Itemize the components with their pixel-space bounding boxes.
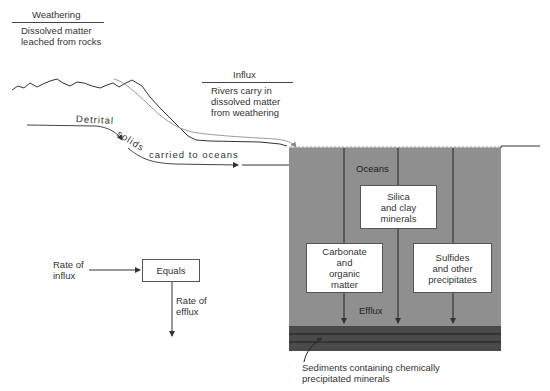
detrital-flow-into-ocean (242, 165, 297, 324)
sulfides-box: Sulfides and other precipitates (413, 243, 492, 293)
equals-label: Equals (156, 265, 185, 276)
influx-desc-1: Rivers carry in (211, 85, 272, 96)
silica-line-1: Silica (381, 191, 417, 202)
ocean-surface-waves (289, 147, 501, 149)
influx-desc-2: dissolved matter (211, 96, 280, 107)
ocean-water (289, 148, 501, 326)
diagram-graphics (0, 0, 550, 391)
rate-of-efflux-1: Rate of (176, 295, 207, 306)
weathering-desc-1: Dissolved matter (21, 25, 92, 36)
rate-of-efflux-2: efflux (176, 306, 199, 317)
sulfides-line-2: and other (428, 263, 477, 274)
efflux-label: Efflux (359, 305, 383, 316)
carbonate-line-3: organic (322, 268, 366, 279)
rate-of-influx-1: Rate of (53, 259, 84, 270)
influx-title: Influx (233, 69, 256, 80)
sediments-label-2: precipitated minerals (302, 373, 390, 384)
weathering-desc-2: leached from rocks (21, 36, 101, 47)
carbonate-line-2: and (322, 257, 366, 268)
detrital-label-1: Detrital (76, 113, 115, 126)
sediments-label-1: Sediments containing chemically (302, 362, 440, 373)
silica-clay-box: Silica and clay minerals (360, 185, 437, 229)
weathering-title: Weathering (32, 9, 80, 20)
influx-divider (202, 82, 293, 83)
detrital-flow-arrow (27, 125, 122, 140)
sulfides-line-1: Sulfides (428, 252, 477, 263)
sulfides-line-3: precipitates (428, 274, 477, 285)
right-shore (501, 146, 540, 148)
equals-box: Equals (142, 259, 200, 282)
detrital-label-3: carried to oceans (149, 149, 239, 160)
oceans-label: Oceans (356, 163, 389, 174)
carbonate-line-4: matter (322, 279, 366, 290)
rate-of-influx-2: influx (53, 270, 75, 281)
influx-desc-3: from weathering (211, 107, 279, 118)
carbonate-line-1: Carbonate (322, 246, 366, 257)
silica-line-2: and clay (381, 202, 417, 213)
weathering-divider (12, 22, 104, 23)
carbonate-organic-box: Carbonate and organic matter (306, 243, 383, 293)
silica-line-3: minerals (381, 213, 417, 224)
